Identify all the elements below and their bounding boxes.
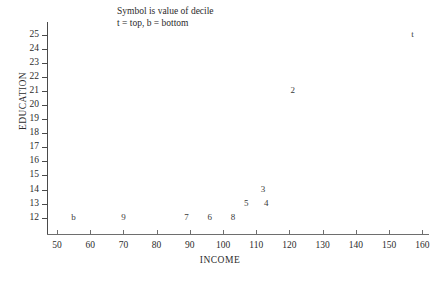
x-tick-mark: [190, 230, 191, 235]
x-tick-label: 120: [274, 240, 304, 250]
x-tick-mark: [223, 230, 224, 235]
annotation-line-1: Symbol is value of decile: [117, 5, 214, 17]
y-axis-title: EDUCATION: [18, 46, 28, 156]
data-point-symbol: 3: [256, 185, 270, 194]
y-tick-label: 12: [0, 213, 39, 223]
x-tick-mark: [422, 230, 423, 235]
x-tick-label: 80: [142, 240, 172, 250]
y-tick-label: 13: [0, 199, 39, 209]
x-tick-label: 110: [241, 240, 271, 250]
x-tick-mark: [57, 230, 58, 235]
x-tick-mark: [123, 230, 124, 235]
x-tick-mark: [256, 230, 257, 235]
x-tick-label: 140: [341, 240, 371, 250]
x-tick-label: 160: [407, 240, 437, 250]
scatter-plot-figure: Symbol is value of decile t = top, b = b…: [0, 0, 440, 285]
x-tick-mark: [90, 230, 91, 235]
data-point-symbol: 4: [259, 199, 273, 208]
x-tick-mark: [157, 230, 158, 235]
x-tick-label: 150: [374, 240, 404, 250]
data-point-symbol: 9: [116, 213, 130, 222]
y-tick-label: 15: [0, 170, 39, 180]
data-point-symbol: 7: [180, 213, 194, 222]
x-tick-label: 70: [108, 240, 138, 250]
y-tick-label: 16: [0, 156, 39, 166]
x-tick-mark: [289, 230, 290, 235]
x-tick-label: 50: [42, 240, 72, 250]
y-tick-label: 14: [0, 185, 39, 195]
y-tick-label: 25: [0, 30, 39, 40]
data-point-symbol: 6: [203, 213, 217, 222]
x-tick-label: 60: [75, 240, 105, 250]
data-point-symbol: 5: [239, 199, 253, 208]
data-point-symbol: 2: [286, 86, 300, 95]
x-tick-label: 90: [175, 240, 205, 250]
x-axis-title: INCOME: [0, 255, 440, 265]
plot-area: [47, 22, 429, 229]
x-tick-label: 100: [208, 240, 238, 250]
data-point-symbol: t: [405, 30, 419, 39]
x-tick-mark: [323, 230, 324, 235]
x-axis-line: [47, 234, 429, 235]
x-tick-label: 130: [308, 240, 338, 250]
data-point-symbol: b: [67, 213, 81, 222]
x-tick-mark: [389, 230, 390, 235]
data-point-symbol: 8: [226, 213, 240, 222]
x-tick-mark: [356, 230, 357, 235]
